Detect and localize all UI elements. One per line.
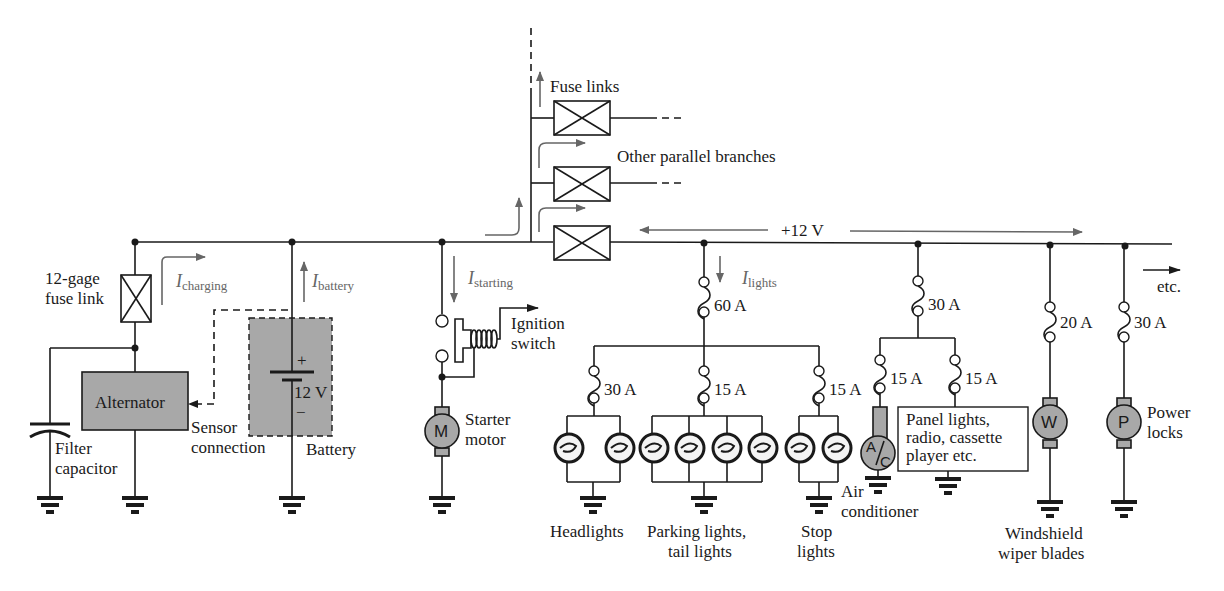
starter-motor-symbol: M xyxy=(434,422,448,441)
ground-icon xyxy=(1037,502,1063,516)
bulb-icon xyxy=(640,434,668,462)
ground-icon xyxy=(37,498,63,512)
parking-label-line2: tail lights xyxy=(668,542,732,561)
ac-fuse-label: 15 A xyxy=(890,369,923,388)
bulb-icon xyxy=(823,434,851,462)
etc-label: etc. xyxy=(1157,277,1181,296)
wiper-label-line1: Windshield xyxy=(1005,524,1083,543)
fuse-links-label: Fuse links xyxy=(550,77,619,96)
wiper-motor-symbol: W xyxy=(1041,413,1057,432)
ground-icon xyxy=(580,498,606,512)
i-lights-label: Ilights xyxy=(741,268,777,290)
locks-label-line2: locks xyxy=(1147,423,1183,442)
filter-capacitor-line1: Filter xyxy=(55,439,92,458)
panel-fuse-label: 15 A xyxy=(965,369,998,388)
fuse-links-stack xyxy=(485,28,682,260)
other-branches-label: Other parallel branches xyxy=(617,147,776,166)
parking-label-line1: Parking lights, xyxy=(647,522,746,541)
headlights-label: Headlights xyxy=(550,522,624,541)
sensor-label-line2: connection xyxy=(191,438,266,457)
ignition-label-line2: switch xyxy=(511,334,556,353)
ground-icon xyxy=(1111,502,1137,516)
ac-label-line2: conditioner xyxy=(841,502,919,521)
stop-label-line2: lights xyxy=(797,542,835,561)
panel-label-line2: radio, cassette xyxy=(906,428,1002,447)
alternator-label: Alternator xyxy=(95,393,165,412)
bulb-icon xyxy=(749,434,777,462)
ground-symbols xyxy=(37,478,1137,516)
ground-icon xyxy=(429,498,455,512)
bulb-icon xyxy=(555,434,583,462)
headlight-bulbs xyxy=(555,434,634,462)
ignition-label-line1: Ignition xyxy=(511,314,565,333)
stop-fuse-label: 15 A xyxy=(829,380,862,399)
headlights-fuse-label: 30 A xyxy=(604,380,637,399)
svg-text:A: A xyxy=(866,438,876,455)
battery-plus: + xyxy=(297,351,307,370)
i-starting-label: Istarting xyxy=(467,268,513,290)
locks-motor-symbol: P xyxy=(1118,413,1129,432)
wiper-label-line2: wiper blades xyxy=(998,544,1084,563)
bulb-icon xyxy=(606,434,634,462)
starter-label-line1: Starter xyxy=(465,410,511,429)
bulb-icon xyxy=(713,434,741,462)
fuse-link-label-line2: fuse link xyxy=(45,289,105,308)
bus-voltage-label: +12 V xyxy=(781,221,825,240)
svg-text:C: C xyxy=(880,453,891,470)
ac-label-line1: Air xyxy=(841,482,864,501)
ground-icon xyxy=(806,498,832,512)
electrical-system-diagram: Fuse links Other parallel branches +12 V… xyxy=(0,0,1224,591)
panel-label-line1: Panel lights, xyxy=(906,410,990,429)
i-battery-label: Ibattery xyxy=(311,271,355,293)
parking-fuse-label: 15 A xyxy=(714,380,747,399)
panel-label-line3: player etc. xyxy=(906,446,977,465)
battery-minus: − xyxy=(296,403,306,422)
locks-branch xyxy=(1107,246,1141,502)
ground-icon xyxy=(935,479,961,493)
stop-label-line1: Stop xyxy=(801,522,832,541)
parking-light-bulbs xyxy=(640,434,777,462)
stop-light-bulbs xyxy=(786,434,851,462)
bulb-icon xyxy=(676,434,704,462)
wiper-branch xyxy=(1033,245,1067,502)
ground-icon xyxy=(691,498,717,512)
filter-capacitor-line2: capacitor xyxy=(55,459,118,478)
i-charging-label: Icharging xyxy=(175,271,228,293)
bus-voltage-indicator xyxy=(640,230,1082,232)
locks-label-line1: Power xyxy=(1147,403,1191,422)
bulb-icon xyxy=(786,434,814,462)
starter-label-line2: motor xyxy=(465,430,506,449)
sensor-label-line1: Sensor xyxy=(191,418,238,437)
fuse-link-label-line1: 12-gage xyxy=(45,269,100,288)
locks-fuse-label: 30 A xyxy=(1134,313,1167,332)
battery-voltage: 12 V xyxy=(294,383,328,402)
lights-main-fuse-label: 60 A xyxy=(714,296,747,315)
wiper-fuse-label: 20 A xyxy=(1060,313,1093,332)
ground-icon xyxy=(865,478,891,492)
accessories-main-fuse-label: 30 A xyxy=(928,295,961,314)
ground-icon xyxy=(122,498,148,512)
battery-label: Battery xyxy=(306,440,357,459)
ground-icon xyxy=(279,498,305,512)
